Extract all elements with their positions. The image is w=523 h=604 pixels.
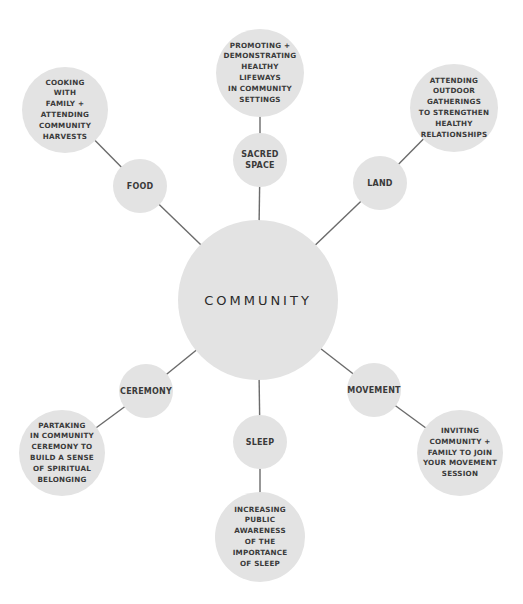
leaf-node-ceremony: PARTAKING IN COMMUNITY CEREMONY TO BUILD… bbox=[19, 410, 105, 496]
leaf-node-movement: INVITING COMMUNITY + FAMILY TO JOIN YOUR… bbox=[417, 410, 503, 496]
category-label: CEREMONY bbox=[120, 386, 172, 397]
category-node-land: LAND bbox=[353, 156, 407, 210]
category-node-ceremony: CEREMONY bbox=[119, 364, 173, 418]
center-node-community: COMMUNITY bbox=[178, 220, 338, 380]
leaf-node-food: COOKING WITH FAMILY + ATTENDING COMMUNIT… bbox=[22, 67, 108, 153]
category-label: LAND bbox=[367, 178, 392, 189]
category-node-sacred-space: SACRED SPACE bbox=[233, 133, 287, 187]
leaf-node-land: ATTENDING OUTDOOR GATHERINGS TO STRENGTH… bbox=[410, 64, 498, 152]
center-label: COMMUNITY bbox=[204, 293, 312, 308]
leaf-label: PROMOTING + DEMONSTRATING HEALTHY LIFEWA… bbox=[224, 41, 297, 106]
category-label: MOVEMENT bbox=[347, 385, 400, 396]
category-node-sleep: SLEEP bbox=[233, 415, 287, 469]
leaf-node-sleep: INCREASING PUBLIC AWARENESS OF THE IMPOR… bbox=[215, 492, 305, 582]
category-label: FOOD bbox=[127, 181, 154, 192]
leaf-label: INVITING COMMUNITY + FAMILY TO JOIN YOUR… bbox=[423, 426, 497, 480]
leaf-label: PARTAKING IN COMMUNITY CEREMONY TO BUILD… bbox=[30, 421, 94, 486]
category-node-food: FOOD bbox=[113, 159, 167, 213]
category-label: SLEEP bbox=[246, 437, 275, 448]
category-label: SACRED SPACE bbox=[241, 149, 278, 171]
community-mind-map: COMMUNITY SACRED SPACE PROMOTING + DEMON… bbox=[0, 0, 523, 604]
leaf-label: ATTENDING OUTDOOR GATHERINGS TO STRENGTH… bbox=[419, 76, 489, 141]
leaf-node-sacred-space: PROMOTING + DEMONSTRATING HEALTHY LIFEWA… bbox=[216, 29, 304, 117]
category-node-movement: MOVEMENT bbox=[347, 363, 401, 417]
leaf-label: INCREASING PUBLIC AWARENESS OF THE IMPOR… bbox=[233, 505, 288, 570]
leaf-label: COOKING WITH FAMILY + ATTENDING COMMUNIT… bbox=[39, 78, 91, 143]
